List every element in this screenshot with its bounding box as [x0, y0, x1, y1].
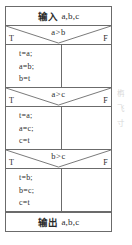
- margin-note-line: 寸: [117, 116, 132, 131]
- condition-expression-1: a>b: [6, 28, 111, 37]
- branch-label-false-2: F: [103, 97, 108, 105]
- statement-line: b=c;: [19, 185, 61, 198]
- condition-row-2: T a>c F: [6, 88, 111, 107]
- condition-expression-3: b>c: [6, 152, 111, 161]
- statement-block-2: t=a; a=c; c=t: [6, 107, 111, 150]
- output-row: 输出 a,b,c: [6, 212, 111, 231]
- statement-block-3-true-branch: t=b; b=c; c=t: [6, 169, 62, 211]
- statement-line: c=t: [19, 135, 61, 148]
- statement-line: b=t: [19, 73, 61, 86]
- statement-line: a=c;: [19, 123, 61, 136]
- statement-block-1-true-branch: t=a; a=b; b=t: [6, 45, 62, 87]
- input-keyword: 输入: [38, 9, 59, 23]
- statement-line: c=t: [19, 197, 61, 210]
- input-variables: a,b,c: [61, 11, 79, 21]
- statement-line: t=b;: [19, 172, 61, 185]
- margin-notes: 栴 飞 寸: [117, 86, 132, 131]
- condition-expression-2: a>c: [6, 90, 111, 99]
- statement-block-1-false-branch: [62, 45, 111, 87]
- statement-line: a=b;: [19, 61, 61, 74]
- statement-block-2-true-branch: t=a; a=c; c=t: [6, 107, 62, 149]
- condition-row-1: T a>b F: [6, 26, 111, 45]
- margin-note-line: 栴: [117, 86, 132, 101]
- margin-note-line: 飞: [117, 101, 132, 116]
- branch-label-false-1: F: [103, 35, 108, 43]
- statement-block-2-false-branch: [62, 107, 111, 149]
- statement-block-3-false-branch: [62, 169, 111, 211]
- output-keyword: 输出: [38, 215, 59, 229]
- statement-block-3: t=b; b=c; c=t: [6, 169, 111, 212]
- statement-line: t=a;: [19, 110, 61, 123]
- branch-label-false-3: F: [103, 159, 108, 167]
- statement-block-1: t=a; a=b; b=t: [6, 45, 111, 88]
- input-row: 输入 a,b,c: [6, 7, 111, 26]
- condition-row-3: T b>c F: [6, 150, 111, 169]
- output-variables: a,b,c: [61, 217, 79, 227]
- ns-flowchart: 输入 a,b,c T a>b F t=a; a=b; b=t T a>c F t: [5, 6, 112, 232]
- statement-line: t=a;: [19, 48, 61, 61]
